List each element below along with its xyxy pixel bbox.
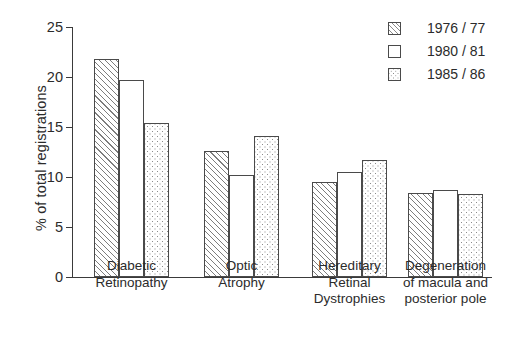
legend-item: 1985 / 86	[388, 64, 508, 84]
y-tick-mark	[66, 177, 72, 178]
category-label-line: Atrophy	[182, 275, 302, 292]
y-tick-mark	[66, 77, 72, 78]
y-tick-label: 15	[47, 119, 63, 135]
y-axis-line	[72, 27, 73, 278]
x-axis-category-label: DiabeticRetinopathy	[72, 258, 192, 291]
bar	[94, 59, 119, 277]
category-label-line: Degeneration	[386, 258, 506, 275]
category-label-line: posterior pole	[386, 291, 506, 308]
legend-item: 1980 / 81	[388, 41, 508, 61]
legend-swatch	[388, 45, 401, 58]
legend-label: 1980 / 81	[427, 43, 485, 59]
y-tick-label: 25	[47, 19, 63, 35]
legend-label: 1985 / 86	[427, 66, 485, 82]
legend-label: 1976 / 77	[427, 20, 485, 36]
category-label-line: of macula and	[386, 275, 506, 292]
y-tick-label: 10	[47, 169, 63, 185]
legend-swatch	[388, 68, 401, 81]
legend: 1976 / 771980 / 811985 / 86	[388, 18, 508, 87]
category-label-line: Optic	[182, 258, 302, 275]
y-tick-label: 20	[47, 69, 63, 85]
y-tick-label: 0	[55, 269, 63, 285]
category-label-line: Diabetic	[72, 258, 192, 275]
y-tick-label: 5	[55, 219, 63, 235]
legend-item: 1976 / 77	[388, 18, 508, 38]
y-tick-mark	[66, 227, 72, 228]
bar-chart-figure: % of total registrations 0510152025 Diab…	[0, 0, 511, 356]
legend-swatch	[388, 22, 401, 35]
y-tick-mark	[66, 27, 72, 28]
y-tick-mark	[66, 127, 72, 128]
category-label-line: Retinopathy	[72, 275, 192, 292]
x-axis-category-label: Degenerationof macula andposterior pole	[386, 258, 506, 308]
bar	[119, 80, 144, 277]
bar	[144, 123, 169, 277]
x-axis-category-label: OpticAtrophy	[182, 258, 302, 291]
bar	[254, 136, 279, 277]
